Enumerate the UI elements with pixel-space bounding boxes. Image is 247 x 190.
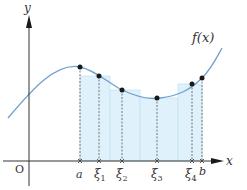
riemann-sum-diagram: y x O f(x) a b ξ1 ξ2 ξ3 ξ4 xyxy=(0,0,247,190)
point-xi2 xyxy=(120,88,125,93)
origin-label: O xyxy=(15,163,24,176)
label-a: a xyxy=(76,168,83,181)
label-xi4: ξ4 xyxy=(185,167,197,183)
rectangles xyxy=(80,76,202,161)
point-b xyxy=(200,76,205,81)
label-b: b xyxy=(199,165,206,178)
subinterval-rect-1 xyxy=(80,76,110,161)
y-axis-arrow-icon xyxy=(26,15,32,28)
label-xi2: ξ2 xyxy=(116,167,128,183)
subinterval-rect-3 xyxy=(140,98,178,161)
point-xi4 xyxy=(190,82,195,87)
point-xi1 xyxy=(97,74,102,79)
point-a xyxy=(78,65,83,70)
label-xi3: ξ3 xyxy=(151,167,163,183)
x-axis-label: x xyxy=(226,154,233,168)
subinterval-rect-2 xyxy=(110,90,140,161)
curve-label: f(x) xyxy=(191,30,214,45)
y-axis-label: y xyxy=(23,1,31,15)
x-axis-arrow-icon xyxy=(211,158,224,164)
point-xi3 xyxy=(155,96,160,101)
label-xi1: ξ1 xyxy=(94,167,106,183)
subinterval-rect-4 xyxy=(178,84,202,161)
